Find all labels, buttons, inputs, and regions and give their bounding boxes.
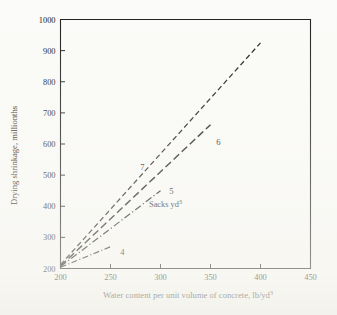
- chart-canvas: 2003004005006007008009001000 20025030035…: [0, 0, 337, 315]
- data-series-group: [61, 43, 261, 267]
- y-tick-label: 1000: [39, 16, 56, 25]
- x-axis-title: Water content per unit volume of concret…: [103, 290, 273, 300]
- series-label-5: 5: [169, 186, 173, 196]
- x-axis: 200250300350400450: [54, 264, 317, 282]
- y-tick-label: 300: [43, 233, 56, 242]
- x-tick-label: 300: [154, 273, 167, 282]
- x-tick-label: 200: [54, 273, 67, 282]
- y-tick-label: 400: [43, 202, 56, 211]
- svg-text:Water content per unit volume: Water content per unit volume of concret…: [103, 290, 273, 300]
- series-line-6: [61, 125, 211, 266]
- x-tick-label: 400: [254, 273, 267, 282]
- annotation-group: Sacks yd3: [149, 199, 182, 209]
- y-tick-label: 700: [43, 109, 56, 118]
- series-label-group: 7654: [120, 137, 221, 258]
- x-tick-label: 450: [304, 273, 317, 282]
- x-tick-label: 350: [204, 273, 217, 282]
- series-label-6: 6: [216, 137, 221, 147]
- series-label-4: 4: [120, 247, 125, 257]
- y-axis-title: Drying shrinkage, millionths: [9, 105, 19, 205]
- y-tick-label: 800: [43, 78, 56, 87]
- chart-figure: 2003004005006007008009001000 20025030035…: [0, 0, 337, 315]
- sacks-units-note: Sacks yd3: [149, 199, 182, 209]
- series-label-7: 7: [140, 162, 145, 172]
- y-axis: 2003004005006007008009001000: [39, 16, 65, 274]
- y-tick-label: 500: [43, 171, 56, 180]
- y-tick-label: 600: [43, 140, 56, 149]
- series-line-7: [61, 43, 261, 265]
- y-tick-label: 900: [43, 47, 56, 56]
- series-line-5: [61, 191, 161, 267]
- x-tick-label: 250: [104, 273, 117, 282]
